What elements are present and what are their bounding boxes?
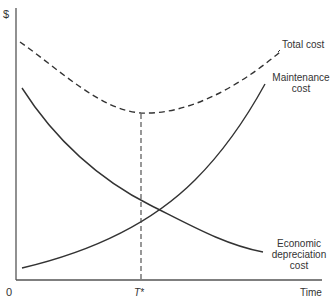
- origin-label: 0: [6, 287, 12, 298]
- maintenance-label-line1: Maintenance: [268, 72, 334, 83]
- t-star-label: T*: [134, 287, 144, 298]
- depreciation-label-line2: depreciation: [266, 249, 332, 260]
- depreciation-label-line1: Economic: [266, 238, 332, 249]
- depreciation-label-line3: cost: [266, 260, 332, 271]
- x-axis-label: Time: [300, 287, 322, 298]
- maintenance-cost-curve: [22, 84, 265, 268]
- total-cost-label: Total cost: [282, 39, 324, 50]
- maintenance-cost-label: Maintenance cost: [268, 72, 334, 94]
- y-axis-label: $: [3, 9, 9, 20]
- maintenance-label-line2: cost: [268, 83, 334, 94]
- total-cost-leader: [278, 50, 280, 52]
- depreciation-cost-label: Economic depreciation cost: [266, 238, 332, 271]
- total-cost-curve: [20, 42, 280, 113]
